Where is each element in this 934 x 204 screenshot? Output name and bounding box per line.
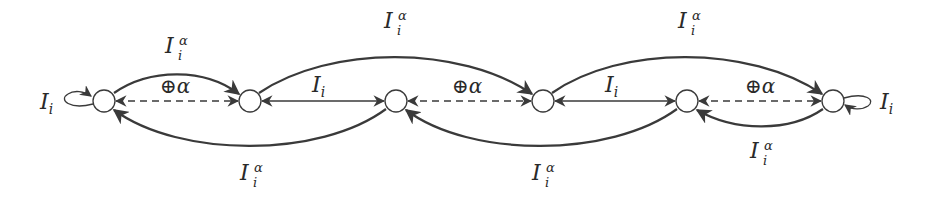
svg-text:I: I	[383, 8, 394, 33]
label-lower-arc-3-1: I α i	[239, 160, 263, 190]
state-node-3	[385, 90, 407, 112]
svg-text:α: α	[764, 138, 773, 153]
label-upper-arc-1-2: I α i	[164, 33, 188, 63]
svg-text:I: I	[164, 33, 175, 58]
label-self-loop-left: Ii	[39, 89, 53, 117]
state-node-2	[239, 90, 261, 112]
svg-text:i: i	[397, 23, 401, 38]
label-dashed-3-4: ⊕α	[452, 74, 483, 98]
edge-lower-arc-5-3	[406, 109, 677, 146]
edge-lower-arc-3-1	[114, 109, 386, 146]
edge-self-loop-right	[844, 96, 871, 109]
label-self-loop-right: Ii	[879, 89, 893, 117]
transition-diagram: Ii Ii I α i I α i I α i I α i I α i I α …	[0, 0, 934, 204]
edge-upper-arc-2-4	[259, 57, 532, 94]
svg-text:α: α	[692, 8, 701, 23]
state-node-5	[676, 90, 698, 112]
edge-upper-arc-4-6	[552, 57, 822, 94]
edge-self-loop-left	[64, 92, 93, 106]
label-straight-4-5: Ii	[604, 72, 618, 100]
label-dashed-1-2: ⊕α	[160, 74, 191, 98]
svg-text:α: α	[254, 160, 263, 175]
label-upper-arc-4-6: I α i	[677, 8, 701, 38]
svg-text:α: α	[546, 160, 555, 175]
svg-text:I: I	[749, 138, 760, 163]
label-lower-arc-5-3: I α i	[531, 160, 555, 190]
svg-text:i: i	[545, 175, 549, 190]
label-straight-2-3: Ii	[311, 72, 325, 100]
state-node-4	[532, 90, 554, 112]
state-node-1	[93, 90, 115, 112]
svg-text:α: α	[179, 33, 188, 48]
svg-text:I: I	[239, 160, 250, 185]
state-node-6	[822, 90, 844, 112]
svg-text:I: I	[531, 160, 542, 185]
label-dashed-5-6: ⊕α	[745, 74, 776, 98]
svg-text:i: i	[178, 48, 182, 63]
label-lower-arc-6-5: I α i	[749, 138, 773, 168]
svg-text:I: I	[677, 8, 688, 33]
svg-text:i: i	[253, 175, 257, 190]
edge-lower-arc-6-5	[697, 109, 823, 126]
svg-text:i: i	[691, 23, 695, 38]
svg-text:α: α	[398, 8, 407, 23]
label-upper-arc-2-4: I α i	[383, 8, 407, 38]
svg-text:i: i	[763, 153, 767, 168]
